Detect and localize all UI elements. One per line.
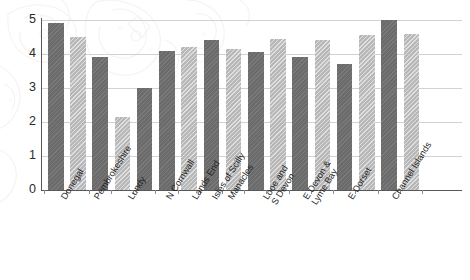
y-tick-label: 5 [12, 13, 36, 26]
y-tick-label: 3 [12, 81, 36, 94]
y-tick-label: 2 [12, 115, 36, 128]
bar [381, 20, 397, 190]
x-tick [155, 190, 156, 194]
x-tick [89, 190, 90, 194]
x-tick [244, 190, 245, 194]
y-tick-label: 1 [12, 149, 36, 162]
x-tick [44, 190, 45, 194]
bar [159, 51, 175, 190]
y-tick-label: 0 [12, 183, 36, 196]
x-tick [111, 190, 112, 194]
x-tick [378, 190, 379, 194]
y-tick-label: 4 [12, 47, 36, 60]
x-tick [289, 190, 290, 194]
bar [292, 57, 308, 190]
grouped-bar-chart: 012345 DonegalPembrokeshireLundyN Cornwa… [0, 0, 470, 280]
bar [48, 23, 64, 190]
gridline [42, 20, 462, 21]
plot-area [42, 20, 462, 190]
bar [92, 57, 108, 190]
x-tick [422, 190, 423, 194]
x-tick [333, 190, 334, 194]
